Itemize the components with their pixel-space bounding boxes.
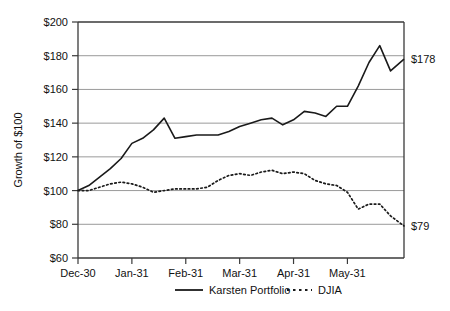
chart-canvas: $200$180$160$140$120$100$80$60 Dec-30Jan… bbox=[0, 0, 450, 311]
y-axis-tick-label: $60 bbox=[50, 252, 68, 264]
x-axis-tick-label: Jan-31 bbox=[115, 267, 149, 279]
endpoint-label-djia: $79 bbox=[411, 220, 429, 232]
y-axis-tick-label: $160 bbox=[44, 83, 68, 95]
x-axis-tick-label: Apr-31 bbox=[277, 267, 310, 279]
x-axis-tick-label: May-31 bbox=[329, 267, 366, 279]
legend-label-djia: DJIA bbox=[318, 284, 343, 296]
growth-of-100-line-chart: $200$180$160$140$120$100$80$60 Dec-30Jan… bbox=[0, 0, 450, 311]
x-axis-tick-label: Feb-31 bbox=[168, 267, 203, 279]
x-axis-tick-label: Mar-31 bbox=[222, 267, 257, 279]
y-axis-tick-label: $180 bbox=[44, 50, 68, 62]
legend-label-karsten-portfolio: Karsten Portfolio bbox=[209, 284, 290, 296]
y-axis-tick-label: $80 bbox=[50, 218, 68, 230]
y-axis-title: Growth of $100 bbox=[12, 112, 24, 187]
y-axis-tick-label: $100 bbox=[44, 185, 68, 197]
x-axis-tick-label: Dec-30 bbox=[60, 267, 95, 279]
y-axis-tick-label: $140 bbox=[44, 117, 68, 129]
endpoint-label-karsten-portfolio: $178 bbox=[411, 53, 435, 65]
y-axis-tick-label: $120 bbox=[44, 151, 68, 163]
y-axis-tick-label: $200 bbox=[44, 16, 68, 28]
